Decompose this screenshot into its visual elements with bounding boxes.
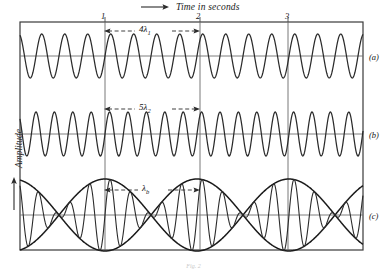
beat-envelope-lower: [20, 215, 363, 251]
panel-letter-b: (b): [369, 130, 379, 140]
dimension-label-b-sub: 2: [147, 107, 150, 114]
figure-root: Time in seconds 1 2 3 Amplitude: [0, 0, 387, 273]
figure-caption: Fig. 2: [0, 263, 387, 269]
dimension-label-c-sub: b: [146, 188, 149, 195]
dimension-arrow-5lambda2: [104, 107, 200, 112]
dimension-arrow-lambda-b: [104, 188, 200, 193]
dimension-label-c: λb: [142, 183, 149, 195]
dimension-arrow-4lambda1: [104, 29, 200, 34]
dimension-label-a: 4λ1: [139, 24, 151, 36]
dimension-label-b: 5λ2: [139, 102, 151, 114]
panel-letter-a: (a): [369, 52, 379, 62]
panel-letter-c: (c): [369, 211, 378, 221]
dimension-label-a-sub: 1: [147, 29, 150, 36]
waveform-plot: [0, 0, 387, 273]
